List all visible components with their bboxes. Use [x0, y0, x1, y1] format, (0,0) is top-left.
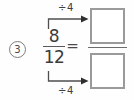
top-operation-label: ÷4 — [58, 2, 74, 14]
top-operation-arrow-icon — [46, 14, 90, 30]
equals-sign: = — [66, 37, 79, 55]
given-fraction: 8 12 — [43, 27, 65, 66]
problem-number-badge: 3 — [9, 41, 26, 58]
bottom-operation-arrow-icon — [46, 70, 90, 86]
fraction-denominator: 12 — [43, 48, 65, 66]
bottom-operation-label: ÷4 — [58, 85, 74, 97]
answer-fraction-bar — [88, 47, 127, 48]
worksheet-problem: 3 8 12 = ÷4 ÷4 — [0, 0, 134, 100]
answer-numerator-box[interactable] — [90, 8, 125, 44]
answer-denominator-box[interactable] — [90, 53, 125, 89]
